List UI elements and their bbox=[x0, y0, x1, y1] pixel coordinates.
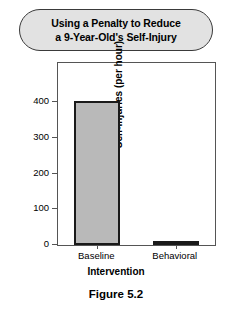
figure-caption: Figure 5.2 bbox=[0, 288, 232, 300]
y-axis-tick: 300 bbox=[52, 137, 58, 138]
y-axis-tick-label: 200 bbox=[33, 167, 49, 178]
chart-plot-area: Self-Injuries (per hour) 0100200300400 bbox=[57, 62, 216, 246]
bar-baseline bbox=[74, 101, 120, 245]
y-axis-tick-label: 300 bbox=[33, 131, 49, 142]
x-axis-tick bbox=[97, 245, 98, 249]
y-axis-tick: 100 bbox=[52, 208, 58, 209]
y-axis-tick-label: 100 bbox=[33, 202, 49, 213]
y-axis-tick-label: 400 bbox=[33, 95, 49, 106]
y-axis-tick: 200 bbox=[52, 173, 58, 174]
x-axis-label-behavioral: Behavioral bbox=[135, 250, 215, 261]
y-axis-tick: 0 bbox=[52, 244, 58, 245]
x-axis-label-baseline: Baseline bbox=[56, 250, 136, 261]
x-axis-title: Intervention bbox=[0, 266, 232, 277]
y-axis-tick: 400 bbox=[52, 101, 58, 102]
y-axis-tick-label: 0 bbox=[44, 238, 49, 249]
x-axis-tick bbox=[176, 245, 177, 249]
